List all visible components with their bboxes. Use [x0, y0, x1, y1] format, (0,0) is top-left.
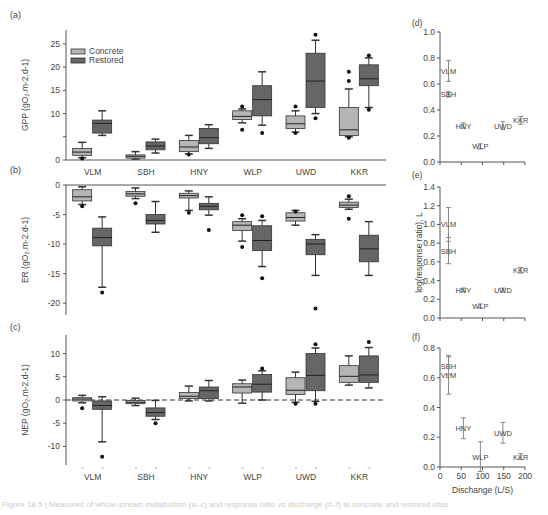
panel-label: (d) — [412, 18, 423, 28]
box-concrete-SBH — [126, 188, 145, 205]
point-VLM: VLM — [441, 208, 456, 242]
panel-label: (b) — [10, 165, 21, 175]
category-label: SBH — [137, 167, 154, 177]
y-tick-label: 0.8 — [423, 53, 435, 63]
y-tick-label: 0.2 — [423, 432, 435, 442]
box-restored-UWD — [306, 33, 325, 121]
point-WLP: WLP — [472, 142, 488, 151]
point-label: HNY — [455, 424, 471, 433]
box-panel-c: (c)1050-5-10NEP (gO₂.m-2.d-1)VLMSBHHNYWL… — [10, 322, 386, 482]
box-concrete-VLM — [73, 142, 92, 160]
box-concrete-VLM — [73, 395, 92, 410]
point-HNY: HNY — [455, 418, 471, 439]
category-label: HNY — [190, 167, 208, 177]
point-label: SBH — [441, 90, 456, 99]
y-tick-label: 0.0 — [423, 462, 435, 472]
point-SBH: SBH — [441, 238, 456, 264]
y-axis-label: log(response ratio), L — [414, 212, 424, 293]
point-label: KKR — [513, 453, 529, 462]
point-UWD: UWD — [494, 286, 512, 295]
point-HNY: HNY — [455, 122, 471, 131]
box-restored-SBH — [146, 400, 165, 425]
y-tick-label: 0.0 — [423, 313, 435, 323]
y-tick-label: -15 — [48, 269, 61, 279]
category-label: HNY — [190, 472, 208, 482]
figure-caption: Figure 18.5 | Measures of whole-stream m… — [2, 500, 449, 509]
point-label: SBH — [441, 247, 456, 256]
y-tick-label: 1.2 — [423, 201, 435, 211]
point-UWD: UWD — [494, 422, 512, 443]
category-label: SBH — [137, 472, 154, 482]
point-label: VLM — [441, 220, 456, 229]
y-tick-label: 5 — [55, 372, 60, 382]
box-concrete-VLM — [73, 187, 92, 209]
scatter-panel-f: (f)0.00.20.40.60.8050100150200Dischange … — [412, 332, 532, 495]
box-concrete-KKR — [339, 194, 358, 220]
point-label: WLP — [472, 302, 488, 311]
y-tick-label: 0.8 — [423, 238, 435, 248]
y-tick-label: -20 — [48, 298, 61, 308]
box-restored-KKR — [359, 340, 378, 388]
y-tick-label: 10 — [51, 349, 61, 359]
point-label: KKR — [513, 116, 529, 125]
point-label: VLM — [441, 67, 456, 76]
y-tick-label: 0.4 — [423, 403, 435, 413]
point-label: UWD — [494, 429, 512, 438]
x-axis-label: Dischange (L/S) — [452, 485, 513, 495]
box-concrete-WLP — [233, 213, 252, 249]
point-VLM: VLM — [441, 61, 456, 82]
y-axis-label: GPP (gO₂.m-2.d-1) — [20, 59, 30, 131]
point-KKR: KKR — [513, 453, 529, 462]
category-label: VLM — [84, 472, 101, 482]
box-restored-SBH — [146, 202, 165, 233]
y-tick-label: 25 — [51, 39, 61, 49]
box-concrete-WLP — [233, 105, 252, 132]
y-tick-label: 0 — [55, 180, 60, 190]
point-label: WLP — [472, 453, 488, 462]
category-label: VLM — [84, 167, 101, 177]
box-restored-WLP — [253, 366, 272, 400]
category-label: WLP — [243, 472, 262, 482]
y-tick-label: 0.4 — [423, 276, 435, 286]
box-concrete-UWD — [286, 210, 305, 226]
y-tick-label: 0.2 — [423, 131, 435, 141]
y-tick-label: 0.4 — [423, 105, 435, 115]
scatter-panel-d: (d)0.00.20.40.60.81.0VLMSBHHNYWLPUWDKKR — [412, 18, 529, 167]
point-label: UWD — [494, 122, 512, 131]
y-tick-label: 1.4 — [423, 182, 435, 192]
box-restored-KKR — [359, 54, 378, 112]
category-label: UWD — [296, 167, 316, 177]
x-tick-label: 100 — [475, 471, 489, 481]
y-axis-label: NEP (gO₂.m-2.d-1) — [20, 364, 30, 436]
box-restored-KKR — [359, 222, 378, 276]
y-tick-label: 0.0 — [423, 157, 435, 167]
panel-label: (a) — [10, 10, 21, 20]
box-restored-VLM — [93, 111, 112, 136]
point-UWD: UWD — [494, 122, 512, 131]
x-tick-label: 200 — [518, 471, 532, 481]
y-tick-label: 0.6 — [423, 373, 435, 383]
y-tick-label: 1.0 — [423, 219, 435, 229]
box-restored-HNY — [199, 197, 218, 232]
panel-label: (c) — [10, 322, 21, 332]
box-concrete-HNY — [179, 191, 198, 215]
box-restored-UWD — [306, 342, 325, 405]
point-HNY: HNY — [455, 286, 471, 295]
point-label: UWD — [494, 286, 512, 295]
point-SBH: SBH — [441, 90, 456, 99]
point-label: VLM — [441, 371, 456, 380]
point-label: HNY — [455, 286, 471, 295]
y-tick-label: 0.6 — [423, 79, 435, 89]
box-concrete-UWD — [286, 372, 305, 406]
legend: ConcreteRestored — [71, 46, 124, 65]
box-restored-WLP — [253, 214, 272, 280]
box-concrete-KKR — [339, 356, 358, 385]
box-restored-UWD — [306, 235, 325, 311]
y-tick-label: 10 — [51, 109, 61, 119]
y-tick-label: -10 — [48, 441, 61, 451]
box-concrete-KKR — [339, 70, 358, 140]
point-label: HNY — [455, 122, 471, 131]
y-tick-label: 0.6 — [423, 257, 435, 267]
point-label: WLP — [472, 142, 488, 151]
box-panel-a: (a)010152025GPP (gO₂.m-2.d-1)VLMSBHHNYWL… — [10, 10, 386, 177]
